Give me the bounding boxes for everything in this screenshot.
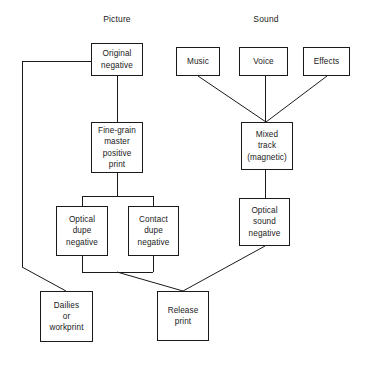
node-music[interactable]: Music <box>176 47 220 76</box>
column-title-picture: Picture <box>103 14 131 24</box>
node-effects[interactable]: Effects <box>303 47 350 76</box>
node-optical-sound-negative[interactable]: Optical sound negative <box>239 198 290 246</box>
wire-soundneg-to-release <box>183 246 265 291</box>
node-mixed-track-magnetic[interactable]: Mixed track (magnetic) <box>241 122 293 170</box>
wire-leftbus-to-dailies <box>22 267 66 291</box>
node-voice[interactable]: Voice <box>239 47 288 76</box>
node-original-negative[interactable]: Original negative <box>91 43 143 76</box>
wire-effects-to-mixed <box>266 76 327 122</box>
wire-music-to-mixed <box>198 76 266 122</box>
wire-dupes-to-release <box>117 272 183 291</box>
node-optical-dupe-negative[interactable]: Optical dupe negative <box>56 206 108 256</box>
column-title-sound: Sound <box>253 14 278 24</box>
node-fine-grain-master-positive-print[interactable]: Fine-grain master positive print <box>91 122 143 173</box>
flowchart-diagram: Picture Sound Original negative Fine-gra… <box>0 0 377 365</box>
node-contact-dupe-negative[interactable]: Contact dupe negative <box>128 206 179 256</box>
node-dailies-or-workprint[interactable]: Dailies or workprint <box>40 291 93 342</box>
node-release-print[interactable]: Release print <box>157 291 209 341</box>
